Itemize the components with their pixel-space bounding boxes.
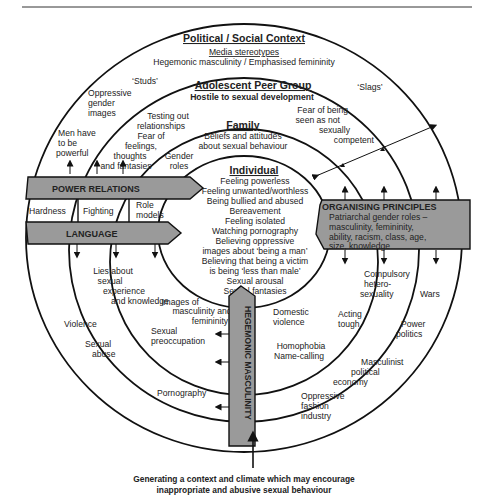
label-fear-feelings: Fear of feelings, thoughts and fantasies	[100, 131, 165, 171]
individual-item: Believing that being a victim	[202, 256, 309, 266]
label-line: Testing out	[147, 111, 189, 121]
label-line: powerful	[56, 148, 89, 158]
label-line: sexuality	[360, 289, 394, 299]
label-domestic-violence: Domestic violence	[273, 307, 310, 327]
label-line: and fantasies	[100, 161, 151, 171]
hegemonic-masculinity-label: HEGEMONIC MASCULINITY	[243, 306, 253, 420]
label-line: Sexual	[151, 326, 177, 336]
label-line: Compulsory	[364, 269, 411, 279]
label-line: political	[351, 367, 380, 377]
label-line: Domestic	[273, 307, 310, 317]
label-line: Oppressive	[301, 391, 345, 401]
peer-title: Adolescent Peer Group	[195, 79, 312, 91]
label-power-politics: Power politics	[396, 319, 425, 339]
label-line: Name-calling	[274, 351, 324, 361]
label-line: to be	[58, 138, 77, 148]
organising-principles-title: ORGANISING PRINCIPLES	[322, 202, 437, 212]
label-line: Men have	[58, 128, 96, 138]
label-lies: Lies about sexual experience and knowled…	[93, 266, 169, 306]
label-line: Acting	[338, 309, 362, 319]
label-line: Lies about	[93, 266, 133, 276]
label-line: preoccupation	[151, 336, 205, 346]
label-line: economy	[333, 377, 369, 387]
label-line: competent	[334, 135, 375, 145]
label-line: gender	[88, 98, 115, 108]
organising-line: size, knowledge	[329, 241, 390, 251]
label-line: masculinity and	[172, 306, 231, 316]
family-line-1: Beliefs and attitudes	[204, 131, 281, 141]
individual-item: Feeling powerless	[220, 176, 289, 186]
individual-item: Sexual arousal	[227, 276, 284, 286]
peer-subtitle: Hostile to sexual development	[190, 92, 314, 102]
label-line: sexual	[98, 276, 123, 286]
label-gender-roles: Gender roles	[165, 151, 194, 171]
label-fear-competent: Fear of being seen as not sexually compe…	[296, 105, 375, 145]
cell-fighting: Fighting	[83, 206, 114, 216]
individual-item: Feeling isolated	[225, 216, 285, 226]
label-line: thoughts	[114, 151, 147, 161]
label-images-masculinity: Images of masculinity and femininity	[161, 297, 232, 326]
label-line: Sexual	[85, 339, 111, 349]
individual-title: Individual	[229, 164, 278, 176]
label-acting-tough: Acting tough	[338, 309, 362, 329]
label-line: feelings,	[125, 141, 157, 151]
label-line: Homophobia	[277, 341, 326, 351]
label-oppressive-gender-images: Oppressive gender images	[88, 88, 132, 118]
label-line: Power	[401, 319, 425, 329]
left-arrows-hegemonic	[218, 334, 229, 407]
label-line: politics	[396, 329, 422, 339]
label-line: tough	[338, 319, 360, 329]
label-line: Fear of being	[297, 105, 348, 115]
power-relations-label: POWER RELATIONS	[52, 184, 140, 194]
political-subtitle: Media stereotypes	[209, 47, 279, 57]
label-line: images	[88, 108, 116, 118]
label-oppressive-fashion: Oppressive fashion industry	[301, 391, 345, 421]
individual-item: Being bullied and abused	[207, 196, 304, 206]
caption-line-1: Generating a context and climate which m…	[133, 474, 355, 484]
label-masculinist: Masculinist political economy	[333, 357, 404, 387]
political-title: Political / Social Context	[183, 32, 305, 44]
individual-item: Believing oppressive	[216, 236, 295, 246]
label-sexual-abuse: Sexual abuse	[85, 339, 116, 359]
cell-role-models-2: models	[136, 210, 164, 220]
label-line: relationships	[137, 121, 185, 131]
individual-item: Feeling unwanted/worthless	[202, 186, 309, 196]
label-sexual-preoccupation: Sexual preoccupation	[151, 326, 205, 346]
individual-item: Watching pornography	[212, 226, 299, 236]
label-violence: Violence	[64, 319, 97, 329]
label-line: experience	[103, 286, 145, 296]
down-arrows-language	[77, 244, 155, 255]
label-line: seen as not	[296, 115, 341, 125]
label-studs: ‘Studs’	[132, 76, 158, 86]
label-pornography: Pornography	[157, 388, 207, 398]
label-slags: ‘Slags’	[357, 82, 382, 92]
nested-circles-diagram: Political / Social Context Media stereot…	[0, 0, 488, 504]
label-compulsory-heterosexuality: Compulsory hetero- sexuality	[360, 269, 411, 299]
political-line: Hegemonic masculinity / Emphasised femin…	[153, 57, 335, 67]
label-line: Oppressive	[88, 88, 132, 98]
family-title: Family	[226, 119, 259, 131]
organising-line: masculinity, femininity,	[329, 222, 414, 232]
label-line: roles	[170, 161, 189, 171]
label-line: abuse	[92, 349, 116, 359]
label-line: femininity	[192, 316, 229, 326]
individual-items: Feeling powerless Feeling unwanted/worth…	[202, 176, 309, 296]
label-line: violence	[273, 317, 305, 327]
label-line: hetero-	[364, 279, 391, 289]
label-men-powerful: Men have to be powerful	[56, 128, 96, 158]
language-label: LANGUAGE	[66, 229, 118, 239]
individual-item: is being ‘less than male’	[209, 266, 300, 276]
label-line: industry	[301, 411, 332, 421]
label-line: Fear of	[137, 131, 165, 141]
organising-line: Patriarchal gender roles –	[329, 212, 428, 222]
family-line-2: about sexual behaviour	[199, 141, 288, 151]
caption-line-2: inappropriate and abusive sexual behavio…	[157, 485, 333, 495]
label-wars: Wars	[420, 289, 440, 299]
label-line: fashion	[301, 401, 329, 411]
label-testing-out: Testing out relationships	[137, 111, 190, 131]
label-homophobia: Homophobia Name-calling	[274, 341, 326, 361]
cell-hardness: Hardness	[29, 206, 66, 216]
diagram-stage: Political / Social Context Media stereot…	[0, 0, 488, 504]
label-line: Gender	[165, 151, 194, 161]
cell-role-models-1: Role	[136, 200, 154, 210]
